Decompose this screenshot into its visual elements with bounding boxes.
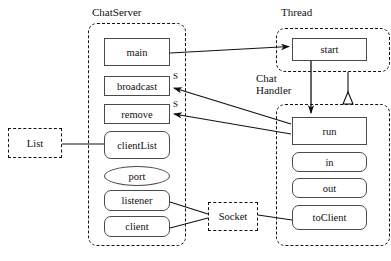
edge-run-to-remove	[174, 114, 291, 134]
package-label-chathandler-line2: Handler	[256, 84, 291, 96]
edge-chathandler-inherits-thread	[343, 72, 353, 104]
member-in[interactable]: in	[292, 152, 367, 172]
package-label-chathandler: Chat Handler	[256, 72, 291, 96]
stereotype-broadcast: S	[173, 72, 178, 81]
external-node-list[interactable]: List	[8, 128, 62, 158]
member-start[interactable]: start	[292, 38, 367, 61]
edge-main-to-start	[170, 47, 289, 54]
inheritance-triangle-icon	[343, 92, 353, 104]
external-node-socket[interactable]: Socket	[208, 202, 258, 231]
member-toclient[interactable]: toClient	[292, 205, 367, 230]
diagram-canvas: ChatServer Thread Chat Handler List Sock…	[0, 0, 391, 261]
member-listener[interactable]: listener	[104, 190, 170, 211]
member-broadcast[interactable]: broadcast	[104, 76, 170, 96]
member-clientlist[interactable]: clientList	[104, 131, 170, 159]
member-run[interactable]: run	[292, 117, 367, 145]
package-label-chatserver: ChatServer	[92, 6, 141, 18]
member-out[interactable]: out	[292, 178, 367, 198]
member-main[interactable]: main	[104, 38, 170, 66]
member-remove[interactable]: remove	[104, 104, 170, 124]
stereotype-remove: S	[173, 100, 178, 109]
member-client[interactable]: client	[104, 216, 170, 237]
package-label-chathandler-line1: Chat	[256, 72, 291, 84]
member-port[interactable]: port	[104, 166, 170, 186]
package-label-thread: Thread	[281, 6, 312, 18]
